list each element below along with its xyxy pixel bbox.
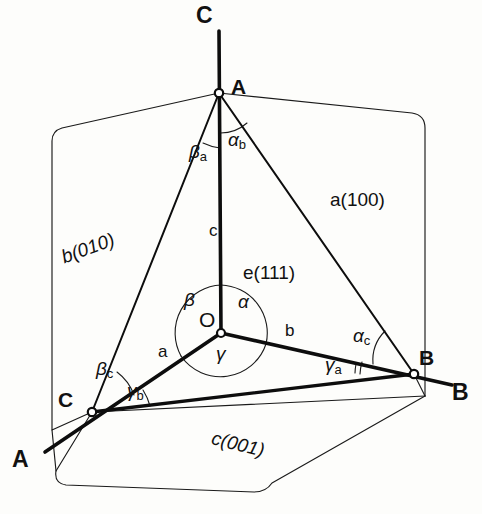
angle-glyph: γ xyxy=(325,354,335,375)
angle-glyph: β xyxy=(184,289,195,310)
axis-cap-a: A xyxy=(12,448,29,471)
vertex-b-dot xyxy=(410,370,418,378)
vertex-label-b: B xyxy=(419,347,434,368)
angle-glyph: α xyxy=(238,291,249,312)
angle-subscript: a xyxy=(200,149,207,164)
edge-a-to-b xyxy=(219,93,414,374)
angle-label-beta-c: βc xyxy=(96,359,113,380)
arc-alpha-c xyxy=(373,331,385,364)
face-label-a-100: a(100) xyxy=(330,190,385,209)
angle-label-beta-a: βa xyxy=(189,142,207,163)
edge-label-c: c xyxy=(209,222,218,239)
vertex-label-c: C xyxy=(58,389,73,410)
angle-glyph: γ xyxy=(127,380,137,401)
angle-glyph: γ xyxy=(216,343,226,364)
edge-label-b: b xyxy=(285,322,294,339)
angle-label-gamma-a: γa xyxy=(325,355,342,376)
origin-label: O xyxy=(199,309,215,330)
vertex-c-dot xyxy=(88,408,96,416)
angle-label-gamma: γ xyxy=(216,344,226,365)
axis-c xyxy=(219,31,221,333)
vertex-a-dot xyxy=(215,89,223,97)
angle-subscript: b xyxy=(239,137,246,152)
angle-label-alpha: α xyxy=(238,292,249,313)
angle-glyph: β xyxy=(189,141,200,162)
origin-dot xyxy=(217,329,225,337)
angle-glyph: α xyxy=(228,129,239,150)
vertex-label-a: A xyxy=(231,76,246,97)
plane-b-010-lower-edge xyxy=(52,430,56,471)
angle-subscript: b xyxy=(137,388,144,403)
axis-cap-c: C xyxy=(196,4,213,27)
face-label-e-111: e(111) xyxy=(243,263,295,282)
angle-subscript: c xyxy=(364,333,371,348)
angle-label-gamma-b: γb xyxy=(127,381,144,402)
angle-glyph: α xyxy=(353,325,364,346)
arc-gamma-a xyxy=(355,364,356,373)
angle-label-alpha-c: αc xyxy=(353,326,370,347)
angle-subscript: c xyxy=(107,366,114,381)
angle-glyph: β xyxy=(96,358,107,379)
edge-label-a: a xyxy=(158,343,167,360)
angle-subscript: a xyxy=(335,362,342,377)
angle-label-beta: β xyxy=(184,290,195,311)
angle-label-alpha-b: αb xyxy=(228,130,246,151)
axis-cap-b: B xyxy=(452,381,469,404)
